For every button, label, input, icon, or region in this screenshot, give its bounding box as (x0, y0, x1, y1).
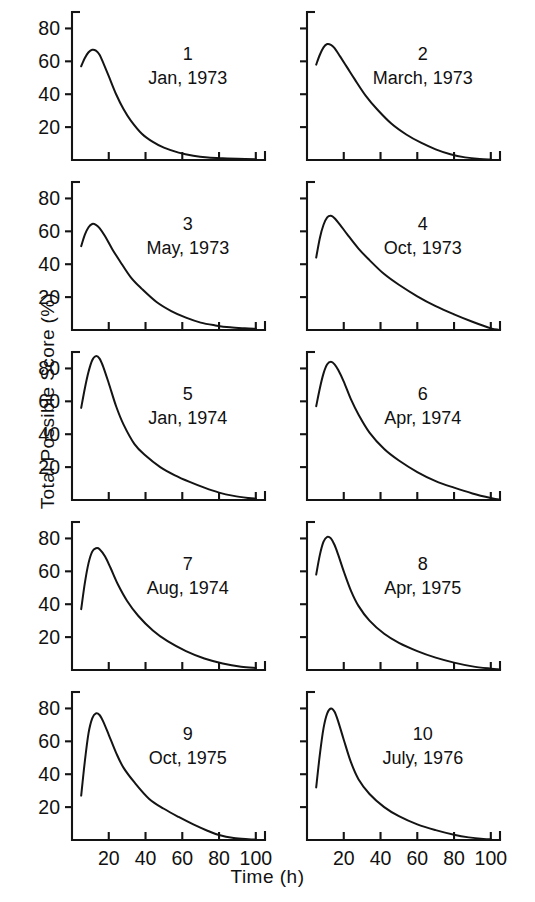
panel-date: Apr, 1975 (384, 578, 461, 598)
panel-date: Jan, 1973 (148, 68, 227, 88)
data-curve (81, 548, 256, 668)
y-tick-label: 60 (38, 730, 60, 752)
panel-4: 4Oct, 1973 (300, 182, 500, 330)
panel-date: Apr, 1974 (384, 408, 461, 428)
data-curve (81, 713, 256, 839)
figure-panel-grid: Total Possible Score (%) Time (h) 204060… (0, 0, 535, 902)
panel-date: Oct, 1975 (149, 748, 227, 768)
y-tick-label: 40 (38, 83, 60, 105)
y-tick-label: 20 (38, 116, 60, 138)
panel-3: 204060803May, 1973 (38, 182, 265, 330)
panel-date: Oct, 1973 (384, 238, 462, 258)
panel-number: 6 (418, 384, 428, 404)
panel-7: 204060807Aug, 1974 (38, 522, 265, 670)
y-tick-label: 80 (38, 697, 60, 719)
data-curve (316, 216, 498, 330)
y-tick-label: 60 (38, 560, 60, 582)
y-axis-label: Total Possible Score (%) (37, 241, 59, 561)
panel-date: Jan, 1974 (148, 408, 227, 428)
data-curve (316, 537, 498, 670)
panel-date: March, 1973 (373, 68, 473, 88)
panel-number: 2 (418, 44, 428, 64)
y-tick-label: 40 (38, 593, 60, 615)
y-tick-label: 40 (38, 763, 60, 785)
panel-number: 9 (183, 724, 193, 744)
plot-canvas: 204060801Jan, 19732March, 1973204060803M… (0, 0, 535, 902)
panel-number: 4 (418, 214, 428, 234)
y-tick-label: 20 (38, 796, 60, 818)
panel-8: 8Apr, 1975 (300, 522, 500, 670)
y-tick-label: 60 (38, 50, 60, 72)
data-curve (316, 44, 491, 160)
panel-date: July, 1976 (382, 748, 463, 768)
panel-number: 5 (183, 384, 193, 404)
panel-1: 204060801Jan, 1973 (38, 12, 265, 160)
y-tick-label: 60 (38, 220, 60, 242)
panel-2: 2March, 1973 (300, 12, 500, 160)
panel-number: 7 (183, 554, 193, 574)
y-tick-label: 20 (38, 626, 60, 648)
data-curve (316, 362, 498, 499)
panel-number: 10 (413, 724, 433, 744)
panel-6: 6Apr, 1974 (300, 352, 500, 500)
panel-9: 20406080204060801009Oct, 1975 (38, 692, 272, 869)
panel-number: 8 (418, 554, 428, 574)
panel-10: 2040608010010July, 1976 (300, 692, 507, 869)
x-axis-label: Time (h) (0, 866, 535, 888)
panel-date: Aug, 1974 (147, 578, 229, 598)
y-tick-label: 80 (38, 187, 60, 209)
y-tick-label: 80 (38, 17, 60, 39)
panel-number: 3 (183, 214, 193, 234)
panel-date: May, 1973 (146, 238, 229, 258)
data-curve (81, 50, 256, 159)
panel-5: 204060805Jan, 1974 (38, 352, 265, 500)
panel-number: 1 (183, 44, 193, 64)
data-curve (316, 708, 491, 839)
